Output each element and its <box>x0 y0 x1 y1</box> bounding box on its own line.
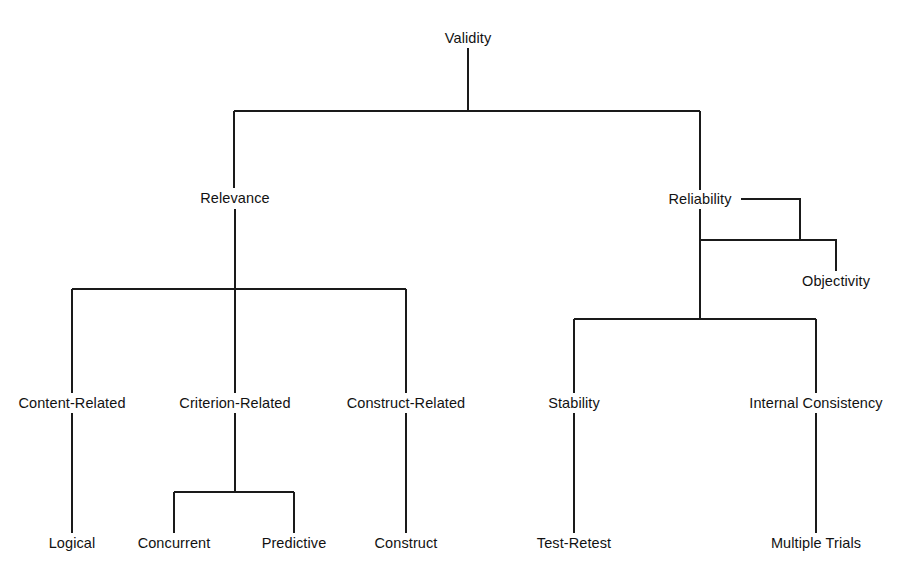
node-test-retest: Test-Retest <box>537 536 611 551</box>
node-concurrent: Concurrent <box>138 536 211 551</box>
node-validity: Validity <box>445 31 491 46</box>
node-objectivity: Objectivity <box>802 274 870 289</box>
node-construct: Construct <box>375 536 438 551</box>
node-internal-consistency: Internal Consistency <box>749 396 882 411</box>
node-construct-related: Construct-Related <box>347 396 466 411</box>
node-logical: Logical <box>49 536 96 551</box>
node-content-related: Content-Related <box>18 396 125 411</box>
validity-reliability-tree-diagram: Validity Relevance Reliability Objectivi… <box>0 0 908 577</box>
node-multiple-trials: Multiple Trials <box>771 536 861 551</box>
tree-connector-lines <box>0 0 908 577</box>
edge-reliability-objectivity <box>741 199 836 271</box>
node-relevance: Relevance <box>200 191 269 206</box>
node-predictive: Predictive <box>262 536 327 551</box>
node-criterion-related: Criterion-Related <box>179 396 290 411</box>
node-reliability: Reliability <box>668 192 731 207</box>
node-stability: Stability <box>548 396 600 411</box>
